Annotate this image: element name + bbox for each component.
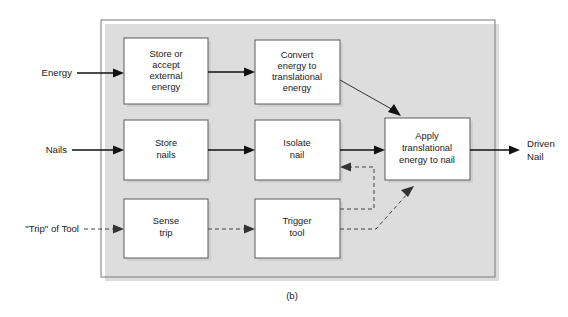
input-label-nails: Nails — [46, 144, 68, 155]
connector-nails-to-store-nails — [72, 146, 124, 155]
figure-caption: (b) — [286, 290, 298, 301]
block-label-line: Isolate — [283, 138, 310, 148]
block-label-line: energy to — [278, 61, 317, 71]
block-label-line: external — [149, 71, 182, 81]
input-label-energy: Energy — [42, 67, 73, 78]
block-label-line: trip — [160, 228, 173, 238]
block-label-line: energy to nail — [399, 155, 455, 165]
block-isolate-nail[interactable]: Isolate nail — [255, 120, 343, 183]
block-store-accept-external-energy[interactable]: Store or accept external energy — [124, 38, 211, 107]
block-convert-energy-to-translational-energy[interactable]: Convert energy to translational energy — [255, 40, 343, 107]
block-label-line: nail — [290, 150, 304, 160]
block-label-line: Store — [155, 138, 177, 148]
block-label-line: tool — [290, 228, 305, 238]
block-label-line: Store or — [149, 49, 182, 59]
input-label-trip-of-tool: "Trip" of Tool — [25, 223, 79, 234]
block-sense-trip[interactable]: Sense trip — [124, 199, 211, 261]
block-label-line: Convert — [281, 50, 314, 60]
block-label-line: translational — [402, 143, 452, 153]
block-diagram-figure: Store or accept external energy Convert … — [0, 0, 568, 317]
block-label-line: accept — [152, 60, 180, 70]
block-label-line: Apply — [415, 131, 439, 141]
output-label-driven-nail-line2: Nail — [527, 151, 544, 162]
output-label-driven-nail-line1: Driven — [527, 138, 555, 149]
block-trigger-tool[interactable]: Trigger tool — [255, 199, 343, 261]
block-label-line: energy — [283, 83, 312, 93]
block-apply-translational-energy-to-nail[interactable]: Apply translational energy to nail — [385, 118, 473, 183]
block-store-nails[interactable]: Store nails — [124, 120, 211, 183]
block-label-line: energy — [152, 82, 181, 92]
block-label-line: Trigger — [282, 216, 311, 226]
block-label-line: nails — [156, 150, 175, 160]
block-label-line: translational — [272, 72, 322, 82]
block-label-line: Sense — [153, 216, 179, 226]
